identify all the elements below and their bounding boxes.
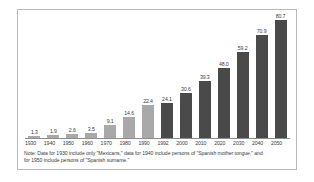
bar-group: 1.3 (25, 14, 43, 138)
x-axis-tick-labels: 1930194019501960197019801990199220002010… (25, 140, 290, 148)
bar (142, 105, 154, 138)
x-tick-label: 2050 (264, 140, 290, 147)
chart-plot-area: 1.31.92.63.59.114.622.424.130.639.348.05… (25, 14, 290, 138)
bar (199, 81, 211, 138)
x-axis-baseline (25, 138, 290, 139)
bar-group: 24.1 (158, 14, 176, 138)
bar (161, 103, 173, 138)
bar-group: 9.1 (101, 14, 119, 138)
bar-value-label: 80.7 (268, 13, 294, 19)
chart-note-line-2: for 1950 include persons of "Spanish sur… (24, 157, 292, 164)
chart-figure: 1.31.92.63.59.114.622.424.130.639.348.05… (0, 0, 314, 182)
chart-note: Note: Data for 1930 include only "Mexica… (24, 150, 292, 164)
bar (237, 52, 249, 138)
bar-group: 80.7 (272, 14, 290, 138)
bar-group: 48.0 (215, 14, 233, 138)
bar-group: 70.9 (253, 14, 271, 138)
bar (180, 93, 192, 138)
chart-note-line-1: Note: Data for 1930 include only "Mexica… (24, 150, 292, 157)
bar-group: 39.3 (196, 14, 214, 138)
bar-group: 22.4 (139, 14, 157, 138)
bar (218, 68, 230, 138)
bar (275, 20, 287, 138)
bar (256, 35, 268, 138)
bar-group: 14.6 (120, 14, 138, 138)
bar-group: 2.6 (63, 14, 81, 138)
bar-group: 1.9 (44, 14, 62, 138)
bar (104, 125, 116, 138)
bar (123, 117, 135, 138)
